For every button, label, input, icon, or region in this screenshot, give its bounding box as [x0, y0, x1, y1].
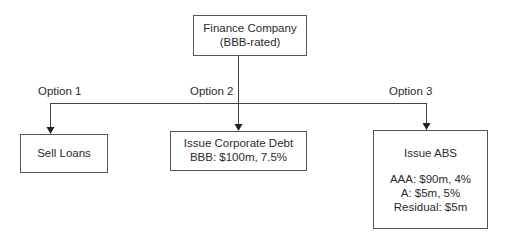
root-node-finance-company: Finance Company (BBB-rated) — [193, 15, 307, 56]
node-issue-corporate-debt: Issue Corporate Debt BBB: $100m, 7.5% — [170, 131, 307, 171]
root-title: Finance Company — [194, 21, 306, 35]
arrow-option-1 — [47, 127, 55, 134]
abs-tranche-a: A: $5m, 5% — [374, 186, 487, 200]
root-subtitle: (BBB-rated) — [194, 35, 306, 49]
option-2-label: Option 2 — [190, 85, 233, 97]
corporate-debt-line-1: BBB: $100m, 7.5% — [171, 150, 306, 164]
abs-tranche-aaa: AAA: $90m, 4% — [374, 172, 487, 186]
option-1-label: Option 1 — [38, 85, 81, 97]
corporate-debt-title: Issue Corporate Debt — [171, 136, 306, 150]
abs-residual: Residual: $5m — [374, 200, 487, 214]
node-issue-abs: Issue ABS AAA: $90m, 4% A: $5m, 5% Resid… — [373, 130, 488, 229]
option-3-label: Option 3 — [389, 85, 432, 97]
node-sell-loans: Sell Loans — [20, 134, 108, 173]
arrow-option-3 — [423, 123, 431, 130]
abs-title: Issue ABS — [374, 146, 487, 160]
arrow-option-2 — [235, 124, 243, 131]
sell-loans-title: Sell Loans — [21, 146, 107, 160]
